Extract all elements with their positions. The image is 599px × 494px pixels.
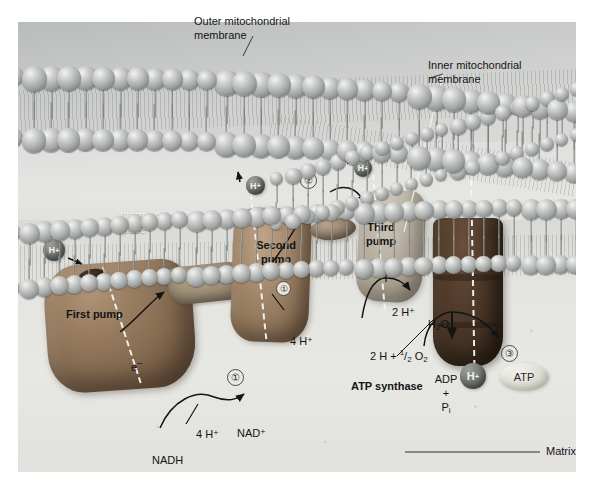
phospholipid-tail xyxy=(393,238,395,260)
phospholipid-tail xyxy=(260,108,262,136)
phospholipid-tail xyxy=(73,255,75,277)
phospholipid-head xyxy=(490,255,506,271)
phospholipid-tail xyxy=(322,189,324,207)
phospholipid-tail xyxy=(163,248,165,270)
phospholipid-head xyxy=(127,129,148,150)
step-marker-1-matrix-label: ① xyxy=(231,372,240,383)
phospholipid-head xyxy=(414,201,433,220)
phospholipid-head xyxy=(285,214,301,230)
oxygen-reactant-label: 2 H + 1/2 O2 xyxy=(370,346,428,364)
two-h-water-label: 2 H⁺ xyxy=(392,306,415,319)
phospholipid-tail xyxy=(277,109,279,137)
phospholipid-head xyxy=(162,130,182,150)
phospholipid-head xyxy=(197,132,216,151)
electron-label: e– xyxy=(131,357,142,374)
phospholipid-tail xyxy=(294,110,296,138)
phospholipid-head xyxy=(442,87,467,112)
phospholipid-head xyxy=(19,279,39,299)
proton-label: H xyxy=(48,245,55,255)
phospholipid-tail xyxy=(50,102,52,130)
phospholipid-head xyxy=(566,199,576,219)
phospholipid-tail xyxy=(346,114,348,142)
phospholipid-tail xyxy=(67,102,69,130)
phospholipid-head xyxy=(375,141,390,156)
proton-above-second-pump: H+ xyxy=(246,176,265,195)
phospholipid-tail xyxy=(351,180,353,198)
proton-intermembrane-left: H+ xyxy=(43,239,65,261)
phospholipid-head xyxy=(315,205,330,220)
atp-label: ATP xyxy=(514,371,535,383)
phospholipid-head xyxy=(92,129,115,152)
phospholipid-head xyxy=(405,132,419,146)
proton-charge: + xyxy=(475,373,479,380)
atp-synthase-ridge-1 xyxy=(434,274,502,281)
phospholipid-tail xyxy=(188,105,190,133)
phospholipid-head xyxy=(495,105,511,121)
phospholipid-head xyxy=(420,127,434,141)
phospholipid-tail xyxy=(133,250,135,272)
nad-plus-label: NAD⁺ xyxy=(237,427,266,440)
phospholipid-tail xyxy=(530,235,532,257)
phospholipid-head xyxy=(92,67,116,91)
phospholipid-head xyxy=(197,70,217,90)
phospholipid-tail xyxy=(178,247,180,269)
phospholipid-head xyxy=(540,137,554,151)
phospholipid-tail xyxy=(453,236,455,258)
phospholipid-head xyxy=(442,149,466,173)
phospholipid-head xyxy=(555,133,568,146)
phospholipid-head xyxy=(566,255,576,274)
phospholipid-head xyxy=(525,96,540,111)
phospholipid-head xyxy=(315,159,331,175)
phospholipid-head xyxy=(50,220,70,240)
phospholipid-head xyxy=(141,269,158,286)
phospholipid-tail xyxy=(531,126,533,144)
phospholipid-tail xyxy=(136,103,138,131)
step-marker-1-pump-label: ① xyxy=(280,284,288,294)
adp-phosphate-label: ADP + Pi xyxy=(428,372,464,416)
phospholipid-head xyxy=(512,157,533,178)
phospholipid-tail xyxy=(363,239,365,261)
phospholipid-tail xyxy=(312,111,314,139)
phospholipid-tail xyxy=(345,239,347,261)
phospholipid-head xyxy=(232,133,256,157)
phospholipid-tail xyxy=(118,252,120,274)
phospholipid-tail xyxy=(468,236,470,258)
phospholipid-head xyxy=(345,150,360,165)
phospholipid-head xyxy=(547,99,568,120)
phospholipid-head xyxy=(156,268,172,284)
phospholipid-tail xyxy=(498,235,500,257)
phospholipid-tail xyxy=(276,183,278,203)
phospholipid-head xyxy=(495,151,510,166)
phospholipid-tail xyxy=(243,107,245,135)
proton-label: H xyxy=(250,181,257,191)
phospholipid-tail xyxy=(381,171,383,189)
phospholipid-head xyxy=(570,82,576,96)
phospholipid-head xyxy=(420,173,433,186)
phospholipid-head xyxy=(285,168,302,185)
step-marker-3-matrix: ③ xyxy=(501,345,518,362)
phospholipid-head xyxy=(490,199,507,216)
proton-label: H xyxy=(357,163,364,173)
phospholipid-tail xyxy=(378,238,380,260)
phospholipid-head xyxy=(375,187,389,201)
phospholipid-head xyxy=(570,128,576,141)
matrix-callout: Matrix xyxy=(546,445,576,458)
phospholipid-head xyxy=(293,261,310,278)
figure-root: H+ H+ H+ H+ ATP ② ① ① ③ Intermembrane sp… xyxy=(0,0,599,494)
phospholipid-head xyxy=(536,199,557,220)
phospholipid-tail xyxy=(560,235,562,257)
phospholipid-head xyxy=(232,264,251,283)
phospholipid-head xyxy=(465,114,481,130)
illustration-plate: H+ H+ H+ H+ ATP ② ① ① ③ Intermembrane sp… xyxy=(18,22,576,472)
phospholipid-head xyxy=(414,257,432,275)
step-marker-1-matrix: ① xyxy=(227,369,244,386)
phospholipid-tail xyxy=(423,237,425,259)
phospholipid-head xyxy=(232,71,257,96)
phospholipid-head xyxy=(110,272,128,290)
four-h-left-label: 4 H⁺ xyxy=(196,428,219,441)
phospholipid-head xyxy=(506,199,523,216)
phospholipid-tail xyxy=(573,137,575,165)
phospholipid-tail xyxy=(85,102,87,130)
phospholipid-head xyxy=(445,200,464,219)
inner-membrane-callout: Inner mitochondrial membrane xyxy=(428,58,522,86)
